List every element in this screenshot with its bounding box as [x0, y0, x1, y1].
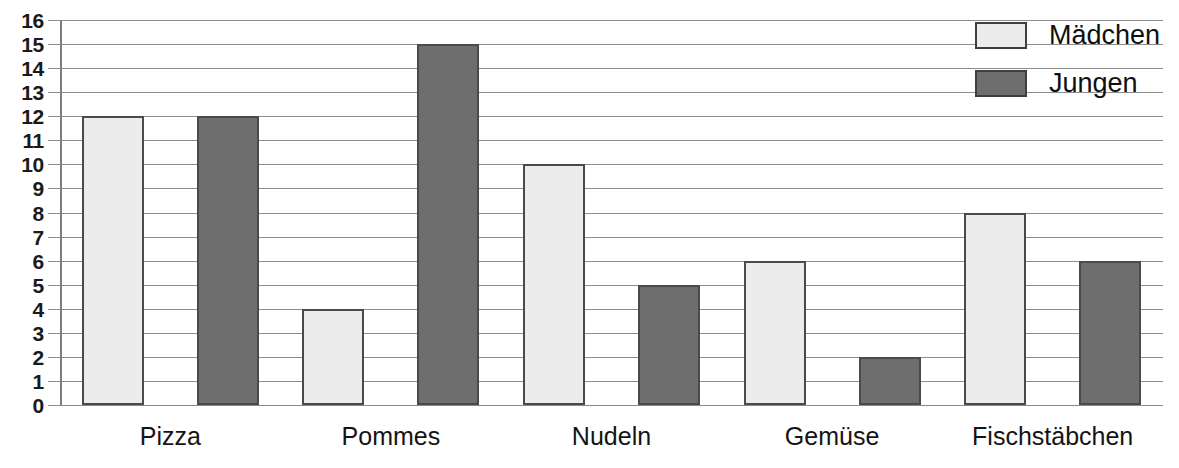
y-tick-mark — [48, 333, 60, 334]
bar-pizza-jungen — [197, 116, 259, 405]
y-tick-mark — [48, 261, 60, 262]
bar-chart: 161514131211109876543210 PizzaPommesNude… — [0, 0, 1179, 468]
legend-label: Jungen — [1049, 70, 1138, 97]
y-tick-mark — [48, 213, 60, 214]
bar-gemüse-jungen — [859, 357, 921, 405]
x-category-label: Pizza — [60, 424, 281, 449]
y-axis-line — [60, 20, 62, 405]
y-tick-mark — [48, 116, 60, 117]
y-tick-mark — [48, 188, 60, 189]
y-tick-mark — [48, 285, 60, 286]
y-tick-mark — [48, 309, 60, 310]
legend-swatch-icon — [975, 22, 1027, 49]
y-tick-label: 9 — [0, 178, 44, 199]
y-tick-label: 4 — [0, 299, 44, 320]
bar-nudeln-jungen — [638, 285, 700, 405]
y-tick-label: 14 — [0, 58, 44, 79]
y-tick-label: 15 — [0, 34, 44, 55]
y-tick-mark — [48, 357, 60, 358]
legend-swatch-icon — [975, 70, 1027, 97]
y-tick-mark — [48, 68, 60, 69]
y-tick-mark — [48, 20, 60, 21]
legend: MädchenJungen — [975, 18, 1160, 114]
y-tick-label: 11 — [0, 130, 44, 151]
legend-item: Mädchen — [975, 18, 1160, 52]
bar-pommes-mädchen — [302, 309, 364, 405]
y-tick-label: 6 — [0, 251, 44, 272]
bar-pommes-jungen — [417, 44, 479, 405]
y-tick-mark — [48, 381, 60, 382]
y-tick-label: 1 — [0, 371, 44, 392]
y-tick-mark — [48, 164, 60, 165]
y-tick-label: 8 — [0, 203, 44, 224]
y-tick-label: 5 — [0, 275, 44, 296]
y-tick-label: 0 — [0, 395, 44, 416]
y-tick-mark — [48, 92, 60, 93]
y-tick-label: 13 — [0, 82, 44, 103]
y-tick-label: 3 — [0, 323, 44, 344]
legend-label: Mädchen — [1049, 22, 1160, 49]
y-tick-label: 10 — [0, 154, 44, 175]
x-category-label: Pommes — [281, 424, 502, 449]
x-category-label: Fischstäbchen — [942, 424, 1163, 449]
y-tick-label: 12 — [0, 106, 44, 127]
bar-nudeln-mädchen — [523, 164, 585, 405]
gridline — [60, 405, 1163, 406]
y-tick-mark — [48, 44, 60, 45]
bar-fischstäbchen-jungen — [1079, 261, 1141, 405]
legend-item: Jungen — [975, 66, 1160, 100]
bar-fischstäbchen-mädchen — [964, 213, 1026, 406]
y-tick-mark — [48, 140, 60, 141]
y-tick-label: 16 — [0, 10, 44, 31]
x-category-label: Nudeln — [501, 424, 722, 449]
y-tick-mark — [48, 405, 60, 406]
bar-pizza-mädchen — [82, 116, 144, 405]
y-tick-mark — [48, 237, 60, 238]
y-tick-label: 2 — [0, 347, 44, 368]
x-category-label: Gemüse — [722, 424, 943, 449]
y-tick-label: 7 — [0, 227, 44, 248]
bar-gemüse-mädchen — [744, 261, 806, 405]
